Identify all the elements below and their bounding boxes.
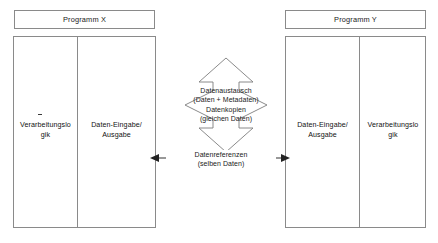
data-exchange-arrow-shape [184, 57, 268, 153]
program-x-processing-logic-label: Verarbeitungslo gik [14, 121, 77, 140]
program-x-processing-logic-cell: Verarbeitungslo gik [14, 37, 78, 227]
diagram-canvas: Programm X Verarbeitungslo gik Daten-Ein… [0, 0, 438, 243]
program-y-data-io-cell: Daten-Eingabe/ Ausgabe [286, 37, 360, 227]
program-y-data-io-label: Daten-Eingabe/ Ausgabe [286, 121, 359, 140]
program-y-title: Programm Y [334, 15, 377, 24]
program-y-header-box: Programm Y [285, 10, 426, 29]
program-x-data-io-label: Daten-Eingabe/ Ausgabe [79, 121, 155, 140]
program-y-processing-logic-cell: Verarbeitungslo gik [360, 37, 426, 227]
program-x-data-io-cell: Daten-Eingabe/ Ausgabe [78, 37, 155, 227]
program-x-title: Programm X [63, 15, 106, 24]
data-reference-arrow-shape [148, 150, 292, 166]
program-y-body-box: Daten-Eingabe/ Ausgabe Verarbeitungslo g… [285, 36, 426, 228]
program-y-processing-logic-label: Verarbeitungslo gik [360, 121, 426, 140]
program-x-body-box: Verarbeitungslo gik Daten-Eingabe/ Ausga… [13, 36, 156, 228]
vertical-double-arrow-icon [184, 57, 268, 153]
horizontal-double-arrow-icon [148, 150, 292, 166]
stray-mark-artifact [38, 114, 42, 115]
program-x-header-box: Programm X [14, 10, 155, 29]
